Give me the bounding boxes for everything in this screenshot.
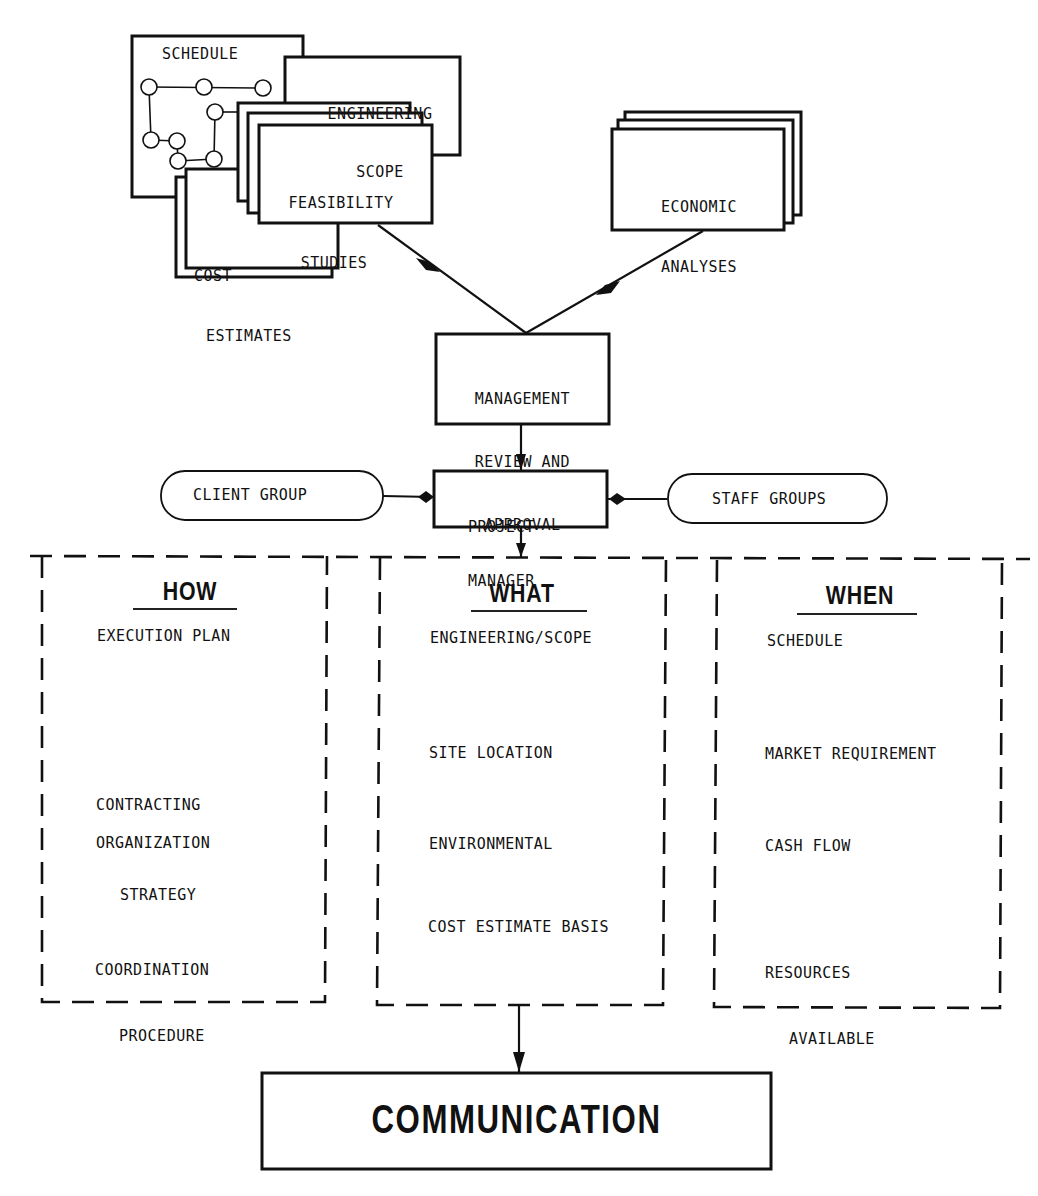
economic-line2: ANALYSES bbox=[624, 257, 774, 277]
diamond-arrow-icon bbox=[416, 258, 440, 272]
project-manager-line1: PROJECT bbox=[468, 518, 535, 536]
cost-estimates-label: COST ESTIMATES bbox=[194, 226, 292, 366]
how-item-coordination-procedure: COORDINATION PROCEDURE bbox=[95, 915, 209, 1069]
what-column-frame bbox=[377, 558, 666, 1005]
diamond-arrow-icon bbox=[418, 491, 434, 503]
what-item-cost-estimate-basis: COST ESTIMATE BASIS bbox=[428, 917, 609, 937]
when-item-market-requirement: MARKET REQUIREMENT bbox=[765, 744, 937, 764]
diamond-arrow-icon bbox=[596, 281, 620, 295]
feasibility-line1: FEASIBILITY bbox=[266, 193, 416, 213]
how-heading: HOW bbox=[149, 576, 231, 607]
client-group-label: CLIENT GROUP bbox=[193, 485, 307, 505]
arrow-down-icon bbox=[513, 1052, 525, 1072]
resources-line1: RESOURCES bbox=[765, 962, 875, 984]
schedule-label: SCHEDULE bbox=[162, 44, 238, 64]
contracting-line1: CONTRACTING bbox=[96, 790, 201, 820]
contracting-line2: STRATEGY bbox=[120, 880, 201, 910]
when-heading: WHEN bbox=[815, 580, 905, 611]
what-heading: WHAT bbox=[477, 578, 567, 609]
what-item-engineering-scope: ENGINEERING/SCOPE bbox=[430, 628, 592, 648]
when-item-resources-available: RESOURCES AVAILABLE bbox=[765, 918, 875, 1072]
economic-line1: ECONOMIC bbox=[624, 197, 774, 217]
when-heading-underline bbox=[797, 613, 917, 615]
coordination-line1: COORDINATION bbox=[95, 959, 209, 981]
how-item-organization: ORGANIZATION bbox=[96, 833, 210, 853]
resources-line2: AVAILABLE bbox=[789, 1028, 875, 1050]
staff-groups-label: STAFF GROUPS bbox=[712, 489, 826, 509]
cost-estimates-line2: ESTIMATES bbox=[206, 326, 292, 346]
management-line2: REVIEW AND bbox=[440, 452, 605, 473]
what-item-site-location: SITE LOCATION bbox=[429, 743, 553, 763]
when-item-schedule: SCHEDULE bbox=[767, 631, 843, 651]
how-heading-underline bbox=[133, 608, 237, 610]
diamond-arrow-icon bbox=[609, 493, 626, 505]
when-item-cash-flow: CASH FLOW bbox=[765, 836, 851, 856]
communication-label: COMMUNICATION bbox=[318, 1097, 715, 1142]
coordination-line2: PROCEDURE bbox=[119, 1025, 209, 1047]
what-heading-underline bbox=[471, 610, 587, 612]
management-line1: MANAGEMENT bbox=[440, 389, 605, 410]
cost-estimates-line1: COST bbox=[194, 266, 292, 286]
engineering-scope-line1: ENGINEERING bbox=[296, 104, 464, 124]
economic-analyses-label: ECONOMIC ANALYSES bbox=[624, 157, 774, 297]
what-item-environmental: ENVIRONMENTAL bbox=[429, 834, 553, 854]
how-item-execution-plan: EXECUTION PLAN bbox=[97, 626, 230, 646]
